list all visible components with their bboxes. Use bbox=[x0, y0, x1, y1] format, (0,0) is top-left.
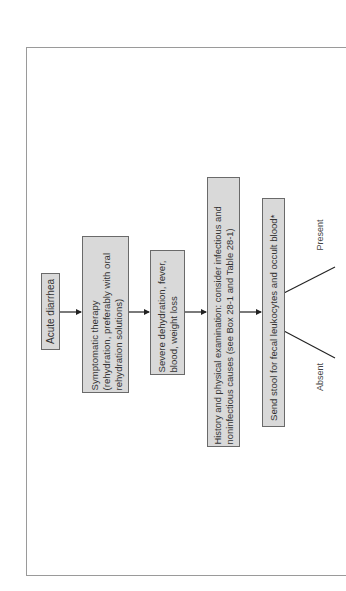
node-acute-diarrhea-text: Acute diarrhea bbox=[41, 273, 60, 350]
node-severe-signs-text: Severe dehydration, fever, blood, weight… bbox=[153, 253, 183, 372]
branch-line-present bbox=[284, 267, 335, 293]
branch-label-present: Present bbox=[315, 215, 325, 255]
node-send-stool-text: Send stool for fecal leukocytes and occu… bbox=[263, 200, 284, 425]
branch-label-absent: Absent bbox=[315, 357, 325, 397]
node-acute-diarrhea: Acute diarrhea bbox=[41, 273, 60, 350]
branch-line-absent bbox=[284, 331, 335, 358]
node-symptomatic-therapy-text: Symptomatic therapy (rehydration, prefer… bbox=[86, 239, 126, 390]
node-history-exam: History and physical examination: consid… bbox=[207, 177, 240, 447]
node-severe-signs: Severe dehydration, fever, blood, weight… bbox=[150, 250, 185, 375]
node-send-stool: Send stool for fecal leukocytes and occu… bbox=[262, 198, 285, 427]
node-history-exam-text: History and physical examination: consid… bbox=[209, 180, 238, 444]
node-symptomatic-therapy: Symptomatic therapy (rehydration, prefer… bbox=[82, 236, 129, 393]
